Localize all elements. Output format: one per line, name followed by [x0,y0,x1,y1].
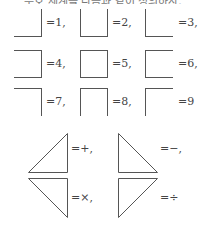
digit-5-label: =5, [112,58,132,70]
minus-label: =−, [160,143,182,155]
digit-7-label: =7, [46,96,66,108]
plus-label: =+, [71,143,93,155]
digit-3-label: =3, [178,17,198,29]
digit-6-symbol [145,50,173,78]
digit-6-label: =6, [178,58,198,70]
digit-4-label: =4, [46,58,66,70]
digit-8-label: =8, [112,96,132,108]
digit-3-symbol [145,9,173,37]
digit-9-symbol [145,88,173,116]
digit-9-label: =9 [178,96,194,108]
digit-2-symbol [80,9,108,37]
digit-8-symbol [80,88,108,116]
times-label: =×, [71,192,93,204]
times-triangle-symbol [28,178,68,218]
minus-triangle-symbol [118,133,158,173]
clipped-title-text: 부호 체계를 다음과 같이 정의하자. [0,0,206,4]
digit-7-symbol [14,88,42,116]
digit-1-symbol [14,9,42,37]
digit-2-label: =2, [112,17,132,29]
digit-4-symbol [14,50,42,78]
plus-triangle-symbol [28,133,68,173]
divide-triangle-symbol [118,178,158,218]
digit-1-label: =1, [46,17,66,29]
divide-label: =÷ [160,192,178,204]
digit-5-symbol [80,50,108,78]
